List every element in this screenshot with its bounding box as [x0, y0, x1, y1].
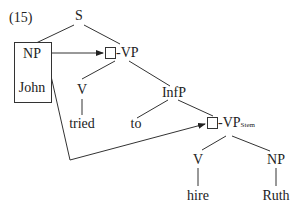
subscript-stem: Stem — [241, 121, 255, 129]
node-v-hire: V — [193, 153, 203, 167]
example-number: (15) — [9, 11, 32, 25]
node-vp: -VP — [116, 46, 139, 60]
tree-lines — [0, 0, 304, 219]
leaf-ruth: Ruth — [262, 189, 289, 203]
node-s: S — [75, 9, 83, 23]
empty-box-vp — [105, 47, 116, 59]
leaf-john: John — [19, 81, 45, 95]
leaf-to: to — [131, 117, 142, 131]
edge-s-vp — [84, 25, 120, 44]
node-np-object: NP — [267, 153, 285, 167]
empty-box-vp-stem — [207, 117, 218, 129]
node-vp-stem: -VPStem — [218, 116, 255, 132]
leaf-hire: hire — [187, 189, 209, 203]
leaf-tried: tried — [69, 117, 95, 131]
node-v-tried: V — [77, 83, 87, 97]
node-infp: InfP — [162, 86, 186, 100]
node-np-subject: NP — [23, 47, 41, 61]
